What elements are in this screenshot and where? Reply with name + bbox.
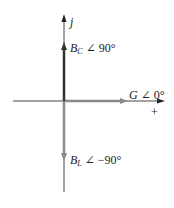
bl-label: BL ∠ −90° — [70, 154, 121, 168]
bl-label-angle: ∠ −90° — [85, 153, 122, 167]
bc-label: BC ∠ 90° — [70, 42, 116, 56]
bc-vector-arrow-icon — [61, 42, 67, 50]
bc-label-angle: ∠ 90° — [86, 41, 116, 55]
g-label: G ∠ 0° — [129, 89, 165, 101]
vertical-axis-arrow-icon — [62, 14, 67, 22]
phasor-diagram — [0, 0, 174, 208]
g-label-angle: ∠ 0° — [141, 88, 165, 102]
g-label-name: G — [129, 88, 138, 102]
g-vector-arrow-icon — [120, 98, 128, 104]
vertical-axis-label: j — [70, 16, 73, 28]
bl-vector-arrow-icon — [61, 153, 67, 161]
bc-label-subscript: C — [77, 47, 82, 56]
bl-label-subscript: L — [77, 159, 81, 168]
horizontal-axis-label: + — [151, 106, 158, 118]
